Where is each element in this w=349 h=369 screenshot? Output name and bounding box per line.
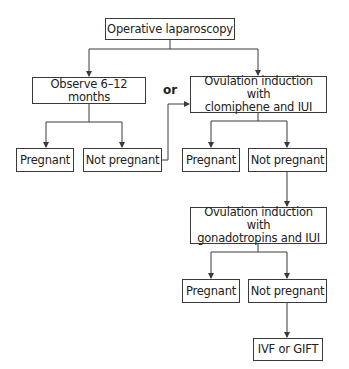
connector-lines [0,0,349,369]
node-clomiphene: Ovulation induction with clomiphene and … [190,76,327,113]
node-label: Operative laparoscopy [107,23,233,36]
or-label: or [163,83,177,97]
node-not-pregnant-1: Not pregnant [83,148,162,172]
node-gonadotropins: Ovulation induction with gonadotropins a… [190,207,327,244]
node-not-pregnant-3: Not pregnant [248,279,327,303]
node-observe: Observe 6–12 months [32,77,146,104]
node-label-line2: clomiphene and IUI [205,101,313,114]
node-label-line2: gonadotropins and IUI [197,232,320,245]
node-label: Not pregnant [251,285,325,298]
node-pregnant-1: Pregnant [16,148,74,172]
node-label: Not pregnant [251,154,325,167]
node-ivf-or-gift: IVF or GIFT [253,338,323,361]
node-pregnant-2: Pregnant [182,148,240,172]
node-label-line1: Ovulation induction with [191,75,326,101]
node-label: Observe 6–12 months [33,78,145,104]
node-label: Not pregnant [86,154,160,167]
node-not-pregnant-2: Not pregnant [248,148,327,172]
node-pregnant-3: Pregnant [182,279,240,303]
node-label: IVF or GIFT [258,343,319,356]
node-label: Pregnant [186,285,236,298]
node-label-line1: Ovulation induction with [191,206,326,232]
node-label: Pregnant [186,154,236,167]
node-operative-laparoscopy: Operative laparoscopy [105,18,235,40]
node-label: Pregnant [20,154,70,167]
